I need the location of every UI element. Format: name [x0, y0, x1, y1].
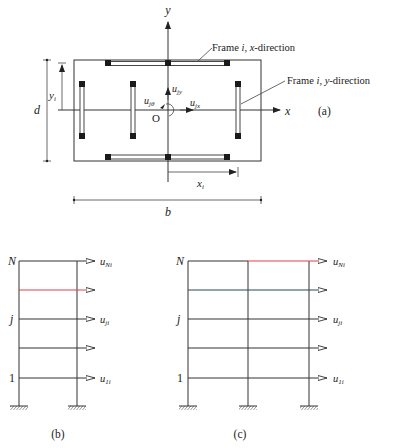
dimension-xi: xi	[168, 167, 238, 191]
panel-a-label: (a)	[318, 105, 331, 118]
dof-u1i-label: u1i	[333, 373, 344, 386]
dimension-d-label: d	[34, 103, 41, 117]
rotation-arrowhead-icon	[160, 104, 165, 109]
panel-c-frame: N j 1 uNi uji u1i (c)	[175, 254, 345, 441]
dimension-b-label: b	[165, 205, 171, 219]
dimension-b: b	[73, 196, 262, 219]
frame-x-direction-top	[105, 60, 230, 66]
callout-leader-x	[198, 48, 212, 61]
column	[105, 60, 111, 66]
level-N-label: N	[175, 254, 185, 268]
level-1-label: 1	[9, 371, 15, 385]
fixed-support-icon	[68, 406, 86, 410]
panel-b-frame: N j 1 uNi uji u1i (b)	[7, 254, 112, 441]
frame-y-direction-left	[79, 81, 85, 139]
dof-uji-label: uji	[100, 314, 109, 327]
callout-leader-y	[241, 81, 285, 104]
dimension-d: d	[34, 59, 51, 162]
frame-y-direction-middle	[130, 81, 136, 139]
y-axis-label: y	[164, 3, 171, 17]
dof-uNi-label: uNi	[333, 256, 345, 269]
level-j-label: j	[175, 312, 181, 326]
dof-u1i-label: u1i	[100, 373, 111, 386]
column	[165, 154, 171, 160]
column	[224, 60, 230, 66]
fixed-support-icon	[179, 406, 197, 410]
fixed-support-icon	[239, 406, 257, 410]
callout-frame-y-direction: Frame i, y-direction	[287, 75, 371, 86]
ujtheta-label: ujθ	[144, 95, 155, 108]
level-N-label: N	[7, 254, 17, 268]
x-axis-label: x	[284, 104, 291, 118]
callout-frame-x-direction: Frame i, x-direction	[212, 42, 296, 53]
ujx-label: ujx	[190, 97, 201, 110]
origin-label: O	[152, 112, 160, 124]
panel-b-label: (b)	[51, 428, 65, 441]
dof-uNi-label: uNi	[100, 256, 112, 269]
fixed-support-icon	[10, 406, 28, 410]
dimension-yi-label: yi	[48, 89, 56, 103]
frame-y-direction-right	[235, 81, 241, 139]
level-j-label: j	[8, 312, 14, 326]
frame-x-direction-bottom	[105, 154, 230, 160]
panel-c-label: (c)	[234, 428, 247, 441]
level-1-label: 1	[177, 371, 183, 385]
figure-canvas: y x	[0, 0, 393, 448]
dimension-yi: yi	[48, 63, 66, 110]
column	[105, 154, 111, 160]
structural-diagram: y x	[0, 0, 393, 448]
dof-uji-label: uji	[333, 314, 342, 327]
panel-a-plan: y x	[34, 3, 371, 219]
column	[224, 154, 230, 160]
fixed-support-icon	[300, 406, 318, 410]
column	[165, 60, 171, 66]
ujy-label: ujy	[172, 83, 183, 96]
dimension-xi-label: xi	[196, 177, 204, 191]
